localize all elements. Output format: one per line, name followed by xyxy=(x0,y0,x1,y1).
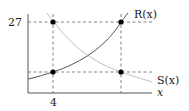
point-x2-27 xyxy=(118,19,123,24)
point-4-low xyxy=(50,69,55,74)
x-tick-label: 4 xyxy=(50,96,57,109)
guide-lines xyxy=(28,14,152,93)
r-curve-label: R(x) xyxy=(134,8,157,21)
y-tick-label: 27 xyxy=(8,16,22,29)
diagram: 27 4 x R(x) S(x) xyxy=(0,0,189,111)
point-x2-low xyxy=(118,69,123,74)
marked-points xyxy=(50,19,123,74)
s-curve-label: S(x) xyxy=(157,74,179,87)
point-4-27 xyxy=(50,19,55,24)
x-axis-label: x xyxy=(157,86,164,99)
